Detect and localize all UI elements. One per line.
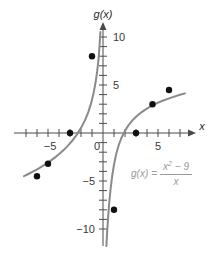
y-tick-label-10: 10: [113, 31, 125, 43]
data-point: [34, 173, 40, 179]
formula-numerator-rest: − 9: [172, 161, 189, 172]
data-point: [149, 101, 155, 107]
function-formula: g(x) = x2 − 9 x: [131, 160, 192, 187]
x-axis-label: x: [198, 120, 205, 132]
formula-fraction: x2 − 9 x: [160, 160, 192, 187]
formula-numerator: x2 − 9: [160, 160, 192, 174]
data-point: [45, 161, 51, 167]
formula-left-side: g(x): [131, 168, 148, 179]
function-plot: −5 0 5 10 5 −5 −10 g(x) x: [0, 0, 216, 261]
data-point: [166, 87, 172, 93]
x-tick-label-5: 5: [155, 140, 161, 152]
x-tick-label-neg5: −5: [44, 140, 57, 152]
y-axis-label: g(x): [94, 8, 113, 20]
data-point: [67, 130, 73, 136]
data-point: [133, 130, 139, 136]
x-tick-label-0: 0: [94, 140, 100, 152]
formula-equals-sign: =: [151, 168, 157, 179]
data-point: [89, 53, 95, 59]
y-tick-label-5: 5: [113, 79, 119, 91]
y-tick-label-neg10: −10: [76, 223, 95, 235]
curve-left-branch: [24, 32, 100, 176]
y-axis-arrow-icon: [100, 22, 107, 30]
x-axis-arrow-icon: [188, 130, 196, 137]
graph-figure: −5 0 5 10 5 −5 −10 g(x) x g(x) = x2 − 9 …: [0, 0, 216, 261]
data-point: [111, 207, 117, 213]
formula-denominator: x: [160, 174, 192, 188]
y-tick-label-neg5: −5: [82, 175, 95, 187]
